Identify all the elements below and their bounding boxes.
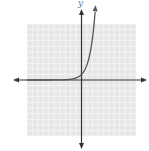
curve-arrow-icon: [93, 5, 98, 11]
right-arrow-icon: [141, 78, 147, 83]
down-arrow-icon: [79, 143, 84, 149]
function-graph: [0, 0, 149, 151]
up-arrow-icon: [79, 9, 84, 15]
y-axis-label: y: [78, 0, 83, 8]
left-arrow-icon: [13, 78, 19, 83]
